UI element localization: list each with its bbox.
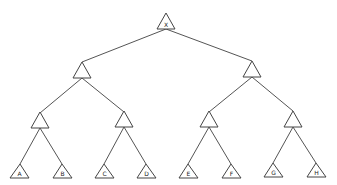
leaf-d: D (137, 164, 156, 178)
edge-rr-h (293, 127, 316, 163)
leaf-label: C (102, 170, 106, 177)
triangle-icon (243, 61, 261, 77)
leaf-label: B (60, 170, 64, 177)
leaf-a: A (10, 164, 29, 178)
leaf-f: F (222, 164, 241, 178)
edge-l-lr (82, 78, 124, 112)
edge-rl-f (209, 127, 231, 164)
node-level2-4 (284, 111, 302, 127)
leaf-label: E (187, 170, 191, 177)
edge-r-rl (209, 77, 252, 112)
edge-ll-b (40, 128, 62, 164)
node-level2-3 (200, 111, 218, 127)
leaf-b: B (53, 164, 72, 178)
leaf-label: F (230, 170, 234, 177)
leaf-label: D (144, 170, 149, 177)
node-level1-right (243, 61, 261, 77)
tree-diagram: X A B C D E F G (0, 0, 337, 185)
triangle-icon (115, 111, 133, 127)
triangle-icon (31, 112, 49, 128)
edge-r-rr (252, 77, 293, 111)
edge-rl-e (188, 127, 209, 164)
edge-lr-d (124, 127, 146, 164)
leaf-label: H (314, 169, 319, 176)
edge-ll-a (20, 128, 40, 164)
node-label: X (164, 21, 168, 28)
node-level2-2 (115, 111, 133, 127)
triangle-icon (284, 111, 302, 127)
leaf-h: H (307, 163, 326, 177)
node-level2-1 (31, 112, 49, 128)
leaf-label: G (271, 169, 276, 176)
leaf-g: G (264, 163, 283, 177)
edges (20, 29, 316, 164)
node-level1-left (73, 62, 91, 78)
edge-rr-g (273, 127, 293, 163)
edge-x-l (82, 29, 166, 62)
edge-x-r (166, 29, 252, 61)
edge-lr-c (104, 127, 124, 164)
edge-l-ll (40, 78, 82, 113)
leaf-e: E (179, 164, 198, 178)
triangle-icon (200, 111, 218, 127)
triangle-icon (73, 62, 91, 78)
node-root-x: X (157, 13, 175, 29)
leaf-c: C (95, 164, 114, 178)
